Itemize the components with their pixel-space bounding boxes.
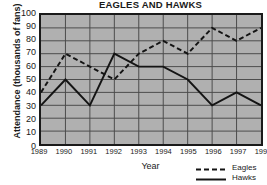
y-tick-label: 60 bbox=[8, 62, 36, 71]
attendance-line-chart: EAGLES AND HAWKS Attendance (thousands o… bbox=[0, 0, 267, 185]
chart-title: EAGLES AND HAWKS bbox=[38, 0, 263, 10]
y-tick-label: 70 bbox=[8, 48, 36, 57]
x-tick-label: 1998 bbox=[246, 148, 267, 156]
plot-area bbox=[39, 13, 263, 146]
legend-line-swatch bbox=[196, 168, 226, 171]
legend-label: Hawks bbox=[232, 173, 256, 182]
y-tick-label: 10 bbox=[8, 128, 36, 137]
y-tick-label: 30 bbox=[8, 102, 36, 111]
plot-canvas bbox=[41, 15, 261, 144]
y-tick-label: 50 bbox=[8, 75, 36, 84]
legend-label: Eagles bbox=[232, 163, 256, 172]
y-tick-label: 90 bbox=[8, 22, 36, 31]
x-axis-tick-labels: 1989199019911992199319941995199619971998 bbox=[39, 148, 263, 160]
legend-line-swatch bbox=[196, 178, 226, 181]
y-tick-label: 40 bbox=[8, 88, 36, 97]
y-tick-label: 80 bbox=[8, 35, 36, 44]
series-line-eagles bbox=[41, 28, 261, 93]
y-tick-label: 100 bbox=[8, 9, 36, 18]
chart-legend: EaglesHawks bbox=[196, 164, 266, 184]
gridlines bbox=[41, 15, 261, 144]
legend-item-hawks: Hawks bbox=[196, 174, 266, 184]
y-tick-label: 20 bbox=[8, 115, 36, 124]
